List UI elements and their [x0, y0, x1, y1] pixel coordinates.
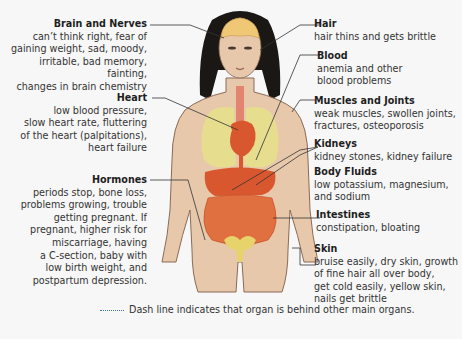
callout-title: Hair [314, 18, 436, 31]
dotted-line-sample [100, 310, 124, 311]
callout-skin: Skin bruise easily, dry skin, growth of … [314, 243, 458, 306]
callout-title: Muscles and Joints [314, 95, 456, 108]
callout-heart: Heart low blood pressure, slow heart rat… [20, 92, 147, 155]
callout-brain-and-nerves: Brain and Nerves can’t think right, fear… [0, 18, 147, 94]
callout-title: Blood [317, 50, 402, 63]
legend: Dash line indicates that organ is behind… [100, 304, 414, 315]
intestines [204, 195, 276, 245]
callout-title: Heart [20, 92, 147, 105]
trachea [236, 86, 244, 126]
callout-hormones: Hormones periods stop, bone loss, proble… [21, 174, 147, 287]
callout-intestines: Intestines constipation, bloating [316, 209, 420, 234]
callout-title: Skin [314, 243, 458, 256]
callout-kidneys: Kidneys kidney stones, kidney failure [314, 138, 452, 163]
legend-text: Dash line indicates that organ is behind… [129, 304, 414, 315]
callout-title: Body Fluids [314, 166, 449, 179]
callout-title: Kidneys [314, 138, 452, 151]
callout-muscles-and-joints: Muscles and Joints weak muscles, swollen… [314, 95, 456, 133]
callout-body-fluids: Body Fluids low potassium, magnesium, an… [314, 166, 449, 204]
callout-title: Intestines [316, 209, 420, 222]
callout-hair: Hair hair thins and gets brittle [314, 18, 436, 43]
callout-title: Brain and Nerves [0, 18, 147, 31]
callout-blood: Blood anemia and other blood problems [317, 50, 402, 88]
callout-title: Hormones [21, 174, 147, 187]
liver [205, 168, 276, 197]
